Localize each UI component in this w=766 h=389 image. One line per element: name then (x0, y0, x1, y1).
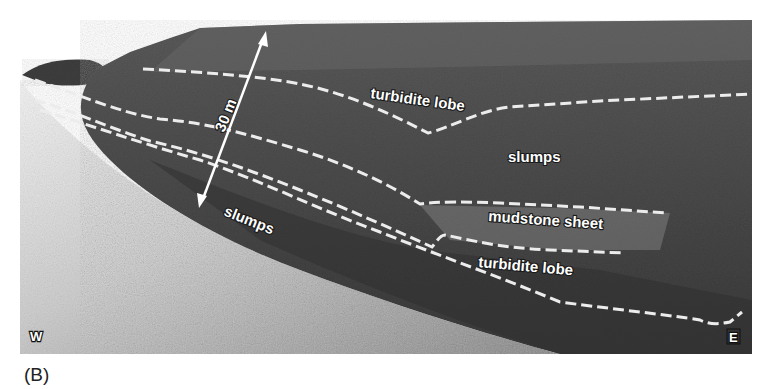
photo-frame (20, 8, 752, 354)
panel-label: (B) (24, 364, 49, 386)
cliff-photograph: 30 m turbidite lobe slumps mudstone shee… (0, 0, 766, 389)
east-label: E (729, 330, 738, 345)
west-label: W (30, 329, 43, 344)
figure-panel-b: 30 m turbidite lobe slumps mudstone shee… (0, 0, 766, 389)
label-upper-slumps: slumps (508, 148, 561, 165)
